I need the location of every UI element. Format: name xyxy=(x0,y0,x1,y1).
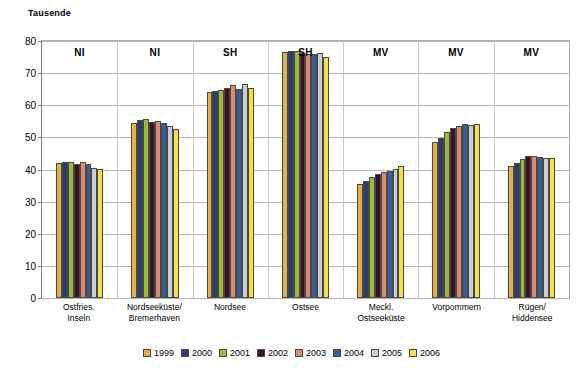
x-axis-category-label: Vorpommern xyxy=(419,302,495,342)
legend-swatch xyxy=(257,349,265,357)
bar-groups: NINISHSHMVMVMV xyxy=(42,41,569,298)
x-axis-label-line: Rügen/ xyxy=(496,302,568,313)
bars-container xyxy=(343,41,418,298)
x-axis-category-label: Nordsee xyxy=(192,302,268,342)
y-axis-tick-label: 50 xyxy=(25,132,36,143)
legend-swatch xyxy=(181,349,189,357)
bars-container xyxy=(117,41,192,298)
group-region-tag: SH xyxy=(193,47,268,58)
legend-label: 2001 xyxy=(230,348,250,358)
legend-label: 2002 xyxy=(268,348,288,358)
x-axis-category-label: Ostfries.Inseln xyxy=(41,302,117,342)
group-region-tag: NI xyxy=(117,47,192,58)
x-axis-label-line: Vorpommern xyxy=(421,302,493,313)
legend-label: 1999 xyxy=(154,348,174,358)
legend-swatch xyxy=(333,349,341,357)
x-axis-label-line: Ostsee xyxy=(270,302,342,313)
bars-container xyxy=(193,41,268,298)
bar[interactable] xyxy=(398,166,404,298)
legend-swatch xyxy=(219,349,227,357)
bar[interactable] xyxy=(323,57,329,298)
plot-area: 01020304050607080 NINISHSHMVMVMV xyxy=(41,40,570,299)
bars-container xyxy=(494,41,569,298)
x-axis-labels: Ostfries.InselnNordseeküste/BremerhavenN… xyxy=(41,302,570,342)
bar-group: MV xyxy=(418,41,493,298)
legend-label: 2006 xyxy=(420,348,440,358)
legend-swatch xyxy=(409,349,417,357)
bar-group: NI xyxy=(117,41,192,298)
group-region-tag: NI xyxy=(42,47,117,58)
x-axis-label-line: Nordseeküste/ xyxy=(119,302,191,313)
legend-item[interactable]: 2000 xyxy=(181,348,212,358)
bar[interactable] xyxy=(248,88,254,298)
y-axis-tick-label: 60 xyxy=(25,100,36,111)
x-axis-label-line: Meckl. xyxy=(345,302,417,313)
y-axis-tick-label: 10 xyxy=(25,260,36,271)
bar-group: MV xyxy=(494,41,569,298)
legend-item[interactable]: 2004 xyxy=(333,348,364,358)
y-axis-tick-label: 80 xyxy=(25,36,36,47)
y-axis-tick-label: 30 xyxy=(25,196,36,207)
x-axis-category-label: Rügen/Hiddensee xyxy=(494,302,570,342)
chart-legend: 19992000200120022003200420052006 xyxy=(0,348,583,358)
x-axis-category-label: Meckl.Ostseeküste xyxy=(343,302,419,342)
y-axis-tick-label: 0 xyxy=(30,293,36,304)
bars-container xyxy=(268,41,343,298)
bar[interactable] xyxy=(173,129,179,298)
x-axis-category-label: Ostsee xyxy=(268,302,344,342)
legend-item[interactable]: 1999 xyxy=(143,348,174,358)
bar[interactable] xyxy=(474,124,480,299)
bar-group: SH xyxy=(268,41,343,298)
legend-label: 2003 xyxy=(306,348,326,358)
y-axis-tick xyxy=(38,298,42,299)
group-region-tag: MV xyxy=(343,47,418,58)
legend-item[interactable]: 2006 xyxy=(409,348,440,358)
legend-item[interactable]: 2003 xyxy=(295,348,326,358)
legend-item[interactable]: 2002 xyxy=(257,348,288,358)
legend-swatch xyxy=(371,349,379,357)
chart-unit-title: Tausende xyxy=(28,8,71,18)
x-axis-label-line: Ostseeküste xyxy=(345,313,417,324)
x-axis-label-line: Ostfries. xyxy=(43,302,115,313)
bar[interactable] xyxy=(97,169,103,299)
bars-container xyxy=(42,41,117,298)
legend-swatch xyxy=(143,349,151,357)
group-region-tag: MV xyxy=(418,47,493,58)
bar-group: MV xyxy=(343,41,418,298)
legend-label: 2005 xyxy=(382,348,402,358)
bars-container xyxy=(418,41,493,298)
x-axis-label-line: Nordsee xyxy=(194,302,266,313)
legend-label: 2004 xyxy=(344,348,364,358)
group-region-tag: MV xyxy=(494,47,569,58)
x-axis-label-line: Bremerhaven xyxy=(119,313,191,324)
y-axis-tick-label: 40 xyxy=(25,164,36,175)
legend-label: 2000 xyxy=(192,348,212,358)
bar-group: SH xyxy=(193,41,268,298)
gridline xyxy=(42,298,569,299)
legend-item[interactable]: 2005 xyxy=(371,348,402,358)
y-axis-tick-label: 70 xyxy=(25,68,36,79)
bar[interactable] xyxy=(549,158,555,298)
group-region-tag: SH xyxy=(268,47,343,58)
x-axis-category-label: Nordseeküste/Bremerhaven xyxy=(117,302,193,342)
y-axis-tick-label: 20 xyxy=(25,228,36,239)
bar-group: NI xyxy=(42,41,117,298)
legend-swatch xyxy=(295,349,303,357)
x-axis-label-line: Hiddensee xyxy=(496,313,568,324)
legend-item[interactable]: 2001 xyxy=(219,348,250,358)
bar-chart: Tausende 01020304050607080 NINISHSHMVMVM… xyxy=(0,0,583,375)
x-axis-label-line: Inseln xyxy=(43,313,115,324)
